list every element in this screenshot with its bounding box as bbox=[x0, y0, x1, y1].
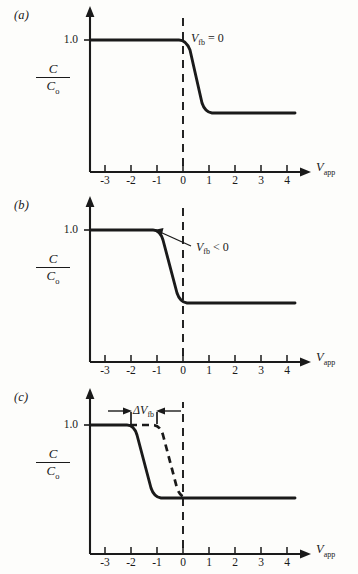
panel-b-xtick-4: 1 bbox=[200, 364, 218, 376]
panel-c-xtick-6: 3 bbox=[252, 556, 270, 568]
cv-curve-solid bbox=[91, 40, 295, 113]
panel-a-ytick-1: 1.0 bbox=[52, 33, 78, 45]
panel-a-y-axis-label: C Co bbox=[36, 62, 70, 95]
panel-b-xtick-2: -1 bbox=[148, 364, 166, 376]
panel-a-xtick-1: -2 bbox=[122, 174, 140, 186]
panel-a-xtick-6: 3 bbox=[252, 174, 270, 186]
panel-a-xtick-4: 1 bbox=[200, 174, 218, 186]
panel-a-flatband-annotation: Vfb = 0 bbox=[191, 31, 224, 47]
panel-c-ytick-1: 1.0 bbox=[52, 418, 78, 430]
panel-a-xtick-3: 0 bbox=[174, 174, 192, 186]
panel-a-x-axis-title: Vapp bbox=[316, 160, 335, 177]
panel-c-xtick-0: -3 bbox=[96, 556, 114, 568]
panel-a: (a) bbox=[0, 0, 358, 190]
panel-b: (b) bbox=[0, 190, 358, 380]
panel-b-xtick-1: -2 bbox=[122, 364, 140, 376]
panel-c-delta-vfb-annotation: ΔVfb bbox=[133, 403, 154, 419]
panel-b-xtick-7: 4 bbox=[278, 364, 296, 376]
panel-a-xtick-5: 2 bbox=[226, 174, 244, 186]
panel-a-xtick-2: -1 bbox=[148, 174, 166, 186]
panel-c-xtick-1: -2 bbox=[122, 556, 140, 568]
panel-c-xtick-5: 2 bbox=[226, 556, 244, 568]
panel-a-xtick-0: -3 bbox=[96, 174, 114, 186]
panel-c: (c) bbox=[0, 382, 358, 572]
panel-c-xtick-4: 1 bbox=[200, 556, 218, 568]
panel-b-xtick-6: 3 bbox=[252, 364, 270, 376]
panel-a-xtick-7: 4 bbox=[278, 174, 296, 186]
figure-capacitance-voltage-curves: (a) bbox=[0, 0, 358, 574]
panel-b-ytick-1: 1.0 bbox=[52, 223, 78, 235]
panel-b-xtick-0: -3 bbox=[96, 364, 114, 376]
panel-b-xtick-3: 0 bbox=[174, 364, 192, 376]
panel-b-y-axis-label: C Co bbox=[36, 252, 70, 285]
panel-b-x-axis-title: Vapp bbox=[316, 350, 335, 367]
panel-b-flatband-annotation: Vfb < 0 bbox=[196, 240, 229, 256]
panel-c-x-axis-title: Vapp bbox=[316, 542, 335, 559]
panel-c-xtick-2: -1 bbox=[148, 556, 166, 568]
annotation-arrow bbox=[154, 228, 191, 246]
cv-curve-solid bbox=[91, 230, 295, 303]
panel-b-xtick-5: 2 bbox=[226, 364, 244, 376]
panel-c-xtick-3: 0 bbox=[174, 556, 192, 568]
cv-curve-solid bbox=[91, 425, 295, 498]
panel-c-xtick-7: 4 bbox=[278, 556, 296, 568]
panel-c-y-axis-label: C Co bbox=[36, 447, 70, 480]
